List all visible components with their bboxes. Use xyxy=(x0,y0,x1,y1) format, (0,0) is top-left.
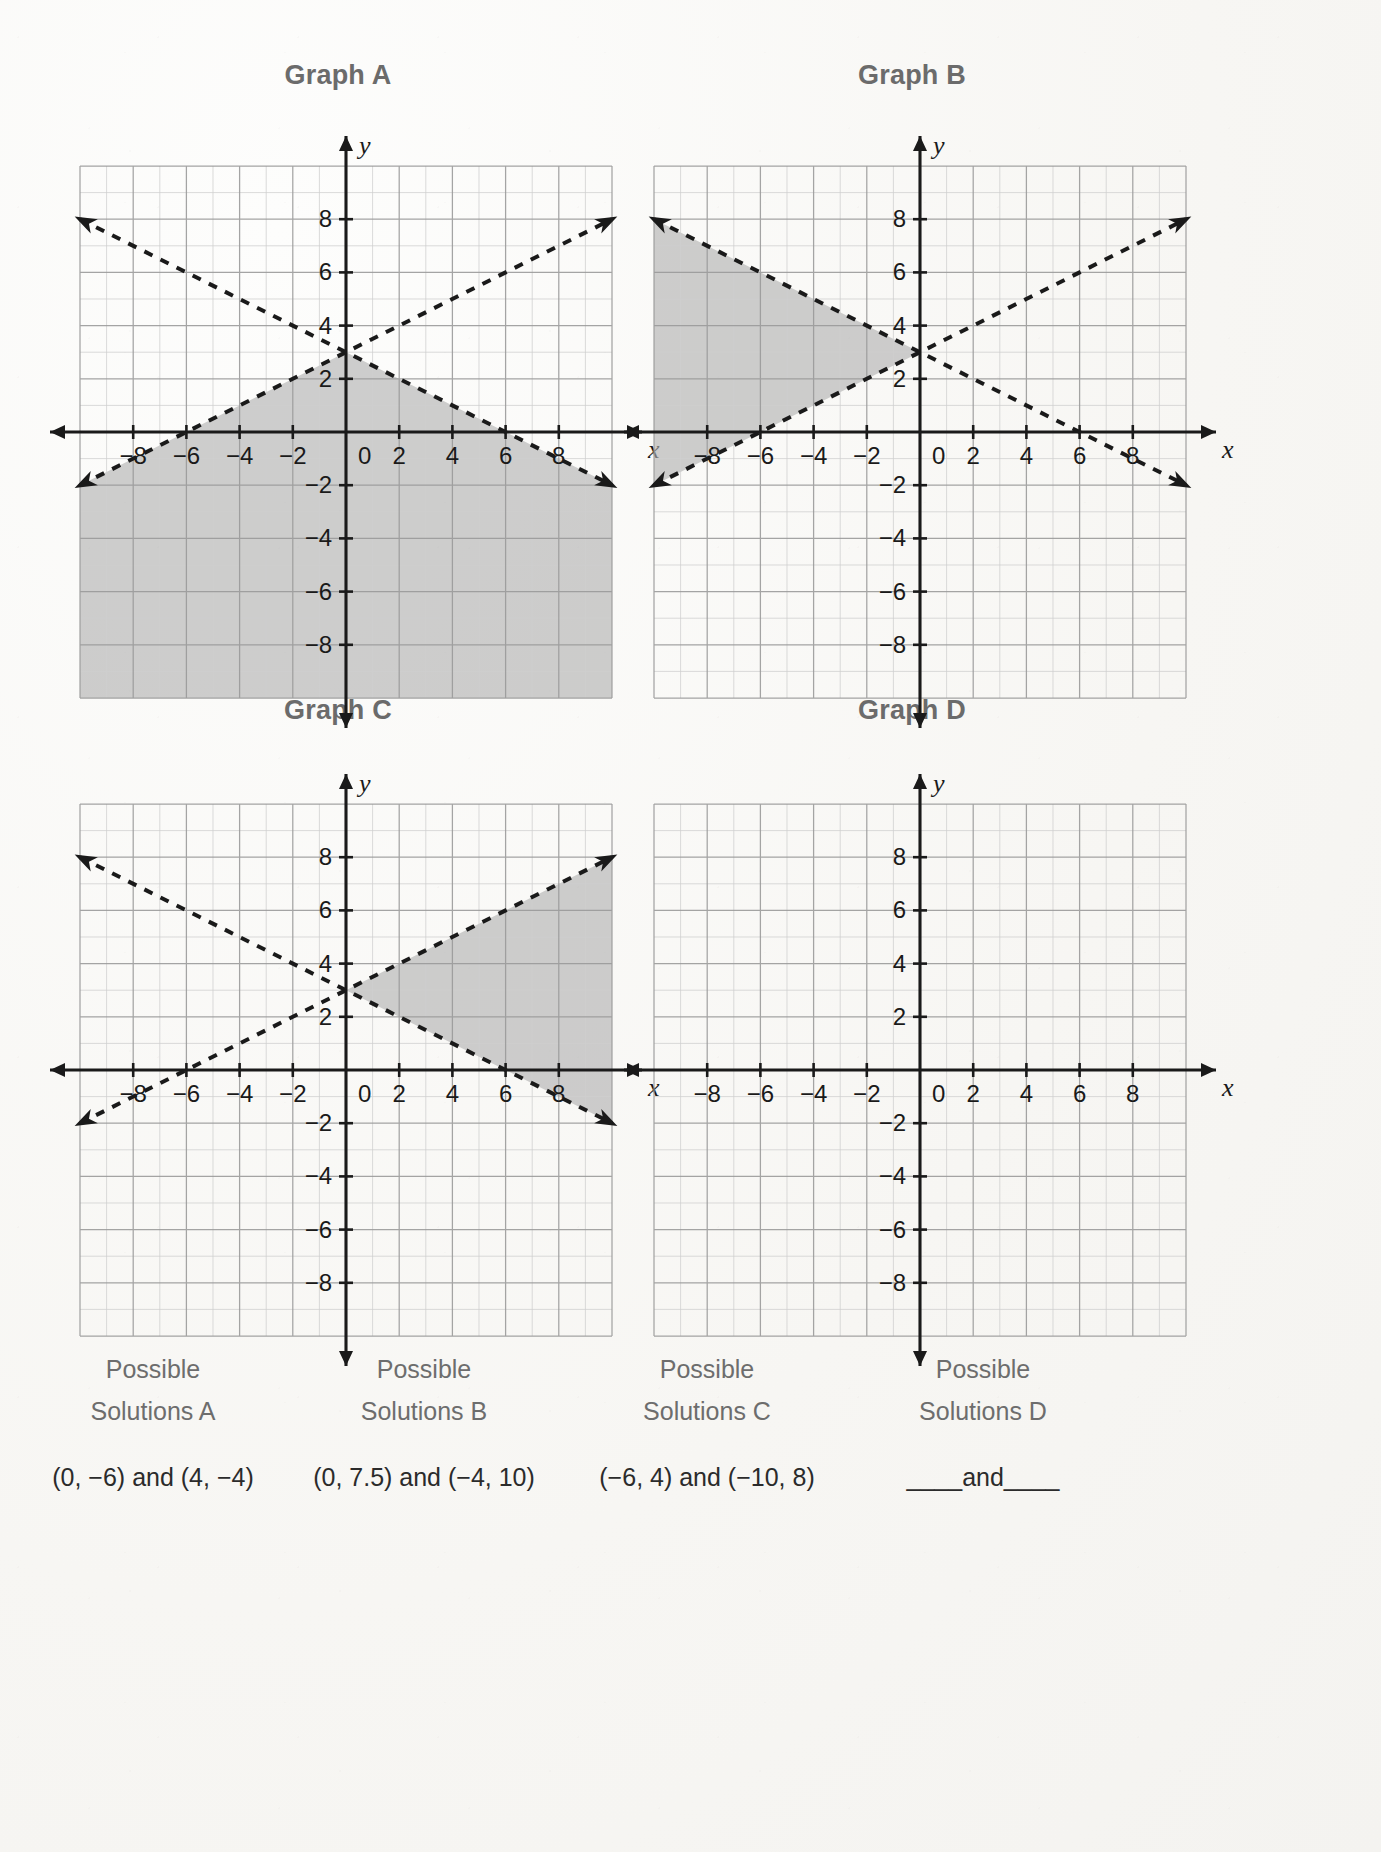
svg-text:−6: −6 xyxy=(173,442,200,469)
svg-text:4: 4 xyxy=(319,950,332,977)
graph-title-a: Graph A xyxy=(285,60,392,91)
svg-text:0: 0 xyxy=(932,1080,945,1107)
svg-text:−8: −8 xyxy=(694,1080,721,1107)
graph-b-plot: xy−8−6−4−22468−8−6−4−224680 xyxy=(584,110,1252,764)
solutions-b: (0, 7.5) and (−4, 10) xyxy=(259,1463,589,1492)
svg-text:−8: −8 xyxy=(694,442,721,469)
svg-text:−8: −8 xyxy=(305,1269,332,1296)
svg-text:y: y xyxy=(930,769,945,798)
svg-text:8: 8 xyxy=(319,205,332,232)
svg-text:4: 4 xyxy=(319,312,332,339)
svg-text:0: 0 xyxy=(932,442,945,469)
svg-text:0: 0 xyxy=(358,1080,371,1107)
svg-text:−8: −8 xyxy=(120,442,147,469)
svg-text:−8: −8 xyxy=(120,1080,147,1107)
svg-text:2: 2 xyxy=(893,365,906,392)
svg-text:x: x xyxy=(1221,1073,1234,1102)
caption-label-d: Possible Solutions D xyxy=(868,1348,1098,1432)
svg-text:6: 6 xyxy=(893,258,906,285)
svg-text:4: 4 xyxy=(893,950,906,977)
solutions-d: ____and____ xyxy=(818,1463,1148,1492)
svg-text:6: 6 xyxy=(1073,442,1086,469)
svg-text:0: 0 xyxy=(358,442,371,469)
svg-text:−6: −6 xyxy=(747,1080,774,1107)
svg-text:2: 2 xyxy=(967,1080,980,1107)
svg-text:−6: −6 xyxy=(879,578,906,605)
svg-text:2: 2 xyxy=(967,442,980,469)
svg-text:4: 4 xyxy=(893,312,906,339)
svg-text:2: 2 xyxy=(319,1003,332,1030)
graph-title-b: Graph B xyxy=(858,60,966,91)
svg-text:−4: −4 xyxy=(305,1162,332,1189)
svg-text:6: 6 xyxy=(499,442,512,469)
svg-text:−8: −8 xyxy=(305,631,332,658)
svg-text:8: 8 xyxy=(893,205,906,232)
svg-text:2: 2 xyxy=(393,442,406,469)
svg-text:−4: −4 xyxy=(800,442,827,469)
svg-text:y: y xyxy=(356,131,371,160)
svg-text:2: 2 xyxy=(893,1003,906,1030)
svg-text:6: 6 xyxy=(893,896,906,923)
svg-text:−2: −2 xyxy=(279,442,306,469)
caption-label-b: Possible Solutions B xyxy=(309,1348,539,1432)
svg-text:−6: −6 xyxy=(305,1216,332,1243)
svg-text:y: y xyxy=(930,131,945,160)
svg-text:2: 2 xyxy=(319,365,332,392)
svg-text:4: 4 xyxy=(446,1080,459,1107)
svg-text:−8: −8 xyxy=(879,631,906,658)
svg-text:−4: −4 xyxy=(879,1162,906,1189)
svg-text:8: 8 xyxy=(1126,1080,1139,1107)
svg-text:−2: −2 xyxy=(853,1080,880,1107)
svg-text:−6: −6 xyxy=(173,1080,200,1107)
graph-c-plot: xy−8−6−4−22468−8−6−4−224680 xyxy=(10,748,678,1402)
svg-text:−4: −4 xyxy=(879,524,906,551)
svg-text:y: y xyxy=(356,769,371,798)
svg-text:−4: −4 xyxy=(226,442,253,469)
svg-text:−6: −6 xyxy=(305,578,332,605)
svg-text:−2: −2 xyxy=(279,1080,306,1107)
svg-text:−2: −2 xyxy=(305,471,332,498)
svg-text:−2: −2 xyxy=(853,442,880,469)
svg-text:8: 8 xyxy=(893,843,906,870)
caption-label-a: Possible Solutions A xyxy=(38,1348,268,1432)
svg-text:−8: −8 xyxy=(879,1269,906,1296)
svg-text:6: 6 xyxy=(499,1080,512,1107)
svg-text:−6: −6 xyxy=(879,1216,906,1243)
svg-text:−6: −6 xyxy=(747,442,774,469)
svg-text:6: 6 xyxy=(319,258,332,285)
svg-text:4: 4 xyxy=(1020,1080,1033,1107)
svg-text:−2: −2 xyxy=(879,1109,906,1136)
svg-text:6: 6 xyxy=(319,896,332,923)
svg-text:x: x xyxy=(1221,435,1234,464)
svg-text:8: 8 xyxy=(319,843,332,870)
svg-text:−4: −4 xyxy=(305,524,332,551)
svg-text:2: 2 xyxy=(393,1080,406,1107)
svg-text:−2: −2 xyxy=(879,471,906,498)
worksheet-page: Graph A Graph B Graph C Graph D xy−8−6−4… xyxy=(0,0,1381,1852)
caption-label-c: Possible Solutions C xyxy=(592,1348,822,1432)
graph-d-plot: xy−8−6−4−22468−8−6−4−224680 xyxy=(584,748,1252,1402)
svg-text:−4: −4 xyxy=(800,1080,827,1107)
svg-text:4: 4 xyxy=(446,442,459,469)
svg-text:−2: −2 xyxy=(305,1109,332,1136)
svg-text:4: 4 xyxy=(1020,442,1033,469)
svg-text:−4: −4 xyxy=(226,1080,253,1107)
graph-a-plot: xy−8−6−4−22468−8−6−4−224680 xyxy=(10,110,678,764)
svg-text:6: 6 xyxy=(1073,1080,1086,1107)
